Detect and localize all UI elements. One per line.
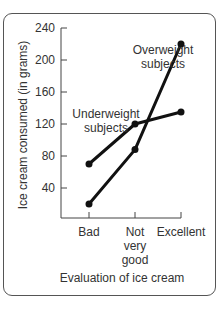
data-point <box>132 146 139 153</box>
y-tick-label: 200 <box>35 53 55 67</box>
y-tick-label: 40 <box>42 181 56 195</box>
data-point <box>86 201 93 208</box>
x-tick-label: Excellent <box>157 225 206 239</box>
series-annotation: Underweightsubjects <box>72 107 140 135</box>
data-point <box>132 121 139 128</box>
data-point <box>178 109 185 116</box>
y-tick-label: 240 <box>35 21 55 35</box>
y-axis: 4080120160200240 <box>35 21 67 218</box>
y-tick-label: 120 <box>35 117 55 131</box>
y-tick-label: 80 <box>42 149 56 163</box>
y-tick-label: 160 <box>35 85 55 99</box>
data-point <box>86 161 93 168</box>
x-axis-label: Evaluation of ice cream <box>60 271 185 285</box>
series-annotation: Overweightsubjects <box>133 43 194 71</box>
chart-series: UnderweightsubjectsOverweightsubjects <box>72 41 194 208</box>
line-chart: 4080120160200240 BadNotverygoodExcellent… <box>0 0 223 311</box>
y-axis-label: Ice cream consumed (in grams) <box>16 41 30 210</box>
x-tick-label: Bad <box>78 225 99 239</box>
x-tick-label: Notverygood <box>122 225 149 267</box>
x-axis: BadNotverygoodExcellent <box>61 212 206 267</box>
